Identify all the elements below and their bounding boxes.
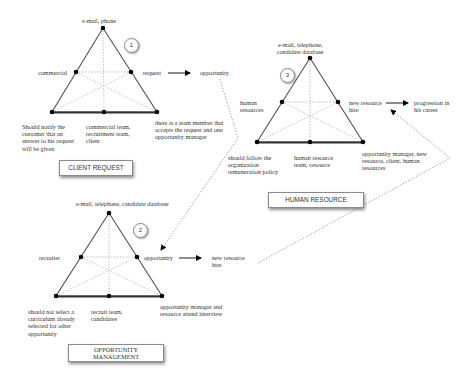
client-request-bottom-center: commercial team, recruitment team, clien… xyxy=(86,123,130,145)
human-resource-arrow-target: progression in his career xyxy=(414,99,449,113)
client-request-arrow-target: opportunity xyxy=(200,69,229,76)
human-resource-bottom-left: should follow the organization remunerat… xyxy=(228,154,278,176)
step-badge-2: 2 xyxy=(133,223,148,238)
human-resource-right-label: new resource hire xyxy=(349,99,382,113)
human-resource-left-label: human resources xyxy=(240,99,263,113)
opportunity-management-bottom-right: opportunity manager and resource attend … xyxy=(160,303,223,317)
client-request-title-box: CLIENT REQUEST xyxy=(59,160,133,176)
opportunity-management-arrow-target: new resource hire xyxy=(212,254,245,268)
opportunity-management-title-box: OPPORTUNITY MANAGEMENT xyxy=(68,344,164,362)
opportunity-management-left-label: recruiter xyxy=(39,254,60,261)
client-request-bottom-right: there is a team member that accepts the … xyxy=(155,119,224,141)
step-badge-3: 3 xyxy=(280,68,295,83)
opportunity-management-bottom-left: should not select a curriculum already s… xyxy=(28,308,75,337)
client-request-top-label: e-mail, phone xyxy=(82,17,116,24)
client-request-left-label: commercial xyxy=(38,69,67,76)
step-badge-1: 1 xyxy=(124,38,139,53)
opportunity-management-bottom-center: recruit team, candidates xyxy=(91,308,122,322)
human-resource-top-label: e-mail, telephone, candidate database xyxy=(277,41,324,55)
diagram-canvas: 1 2 3 e-mail, phone commercial request o… xyxy=(0,0,474,384)
client-request-bottom-left: Should notify the customer that an answe… xyxy=(22,123,74,152)
human-resource-bottom-right: opportunity manager, new resource, clien… xyxy=(362,150,427,172)
opportunity-management-top-label: e-mail, telephone, candidate database xyxy=(76,200,169,207)
opportunity-management-right-label: opportunity xyxy=(144,254,173,261)
human-resource-bottom-center: human resource team, resource xyxy=(294,154,333,168)
client-request-right-label: request xyxy=(143,69,161,76)
human-resource-title-box: HUMAN RESOURCE xyxy=(268,192,364,208)
